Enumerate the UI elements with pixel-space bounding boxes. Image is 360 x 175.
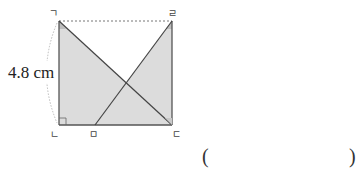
answer-open-paren: (: [202, 145, 209, 168]
label-top-left: ㄱ: [49, 8, 58, 19]
label-top-right: ㄹ: [168, 8, 177, 19]
answer-blank[interactable]: [215, 148, 345, 170]
label-bottom-point: ㅁ: [89, 129, 98, 140]
label-bottom-left: ㄴ: [50, 129, 59, 140]
length-label: 4.8 cm: [8, 63, 54, 82]
label-bottom-right: ㄷ: [172, 129, 181, 140]
answer-close-paren: ): [349, 145, 356, 168]
